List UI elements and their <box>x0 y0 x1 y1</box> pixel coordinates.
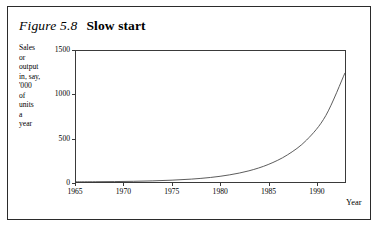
y-axis-label-line: a <box>19 110 55 120</box>
x-tick-label: 1970 <box>108 188 138 196</box>
x-tick-mark <box>317 183 318 186</box>
figure-title: Slow start <box>87 18 146 33</box>
x-axis-title: Year <box>346 199 361 207</box>
plot-area <box>75 50 346 183</box>
x-tick-mark <box>75 183 76 186</box>
y-tick-label: 0 <box>42 179 70 187</box>
figure-number: Figure 5.8 <box>19 18 78 33</box>
y-axis-label-line: units <box>19 100 55 110</box>
x-tick-label: 1990 <box>302 188 332 196</box>
y-axis-label-line: output <box>19 62 55 72</box>
x-tick-label: 1965 <box>60 188 90 196</box>
x-tick-mark <box>123 183 124 186</box>
x-tick-mark <box>220 183 221 186</box>
y-tick-label: 1500 <box>42 46 70 54</box>
y-axis-label-line: year <box>19 119 55 129</box>
figure-container: Figure 5.8Slow start Sales or output in,… <box>7 6 371 220</box>
x-tick-label: 1985 <box>254 188 284 196</box>
y-axis-label-line: '000 <box>19 81 55 91</box>
y-tick-label: 500 <box>42 135 70 143</box>
y-axis-label-line: in, say, <box>19 72 55 82</box>
x-tick-mark <box>172 183 173 186</box>
sales-curve <box>76 51 345 182</box>
y-tick-label: 1000 <box>42 90 70 98</box>
y-axis-label-line: or <box>19 53 55 63</box>
x-tick-mark <box>269 183 270 186</box>
x-tick-label: 1975 <box>157 188 187 196</box>
figure-caption: Figure 5.8Slow start <box>19 17 146 33</box>
y-axis-label: Sales or output in, say, '000 of units a… <box>19 43 55 129</box>
x-tick-label: 1980 <box>205 188 235 196</box>
